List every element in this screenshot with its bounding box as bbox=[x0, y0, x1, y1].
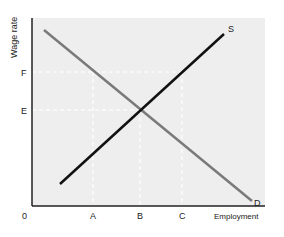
x-tick-b: B bbox=[137, 211, 143, 221]
y-axis-label: Wage rate bbox=[9, 17, 19, 58]
y-tick-e: E bbox=[21, 106, 27, 116]
x-tick-a: A bbox=[90, 211, 96, 221]
y-tick-f: F bbox=[21, 68, 27, 78]
labor-market-chart: S D F E 0 A B C Employment Wage rate bbox=[0, 0, 284, 237]
x-axis-label: Employment bbox=[214, 212, 259, 221]
demand-label: D bbox=[254, 198, 261, 208]
supply-label: S bbox=[228, 24, 234, 34]
x-tick-c: C bbox=[179, 211, 186, 221]
origin-label: 0 bbox=[22, 211, 27, 221]
